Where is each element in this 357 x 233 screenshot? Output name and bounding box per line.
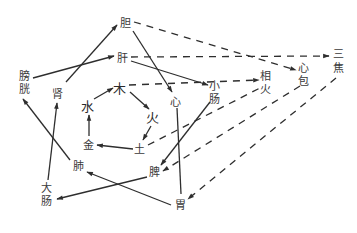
- node-huo: 火: [146, 110, 159, 125]
- edge-tu-to-jin: [97, 145, 133, 149]
- edge-gan-to-sanjiao: [131, 56, 329, 57]
- node-xinbao-2: 包: [298, 75, 309, 88]
- edge-dan-to-xin: [133, 31, 172, 92]
- node-gan: 肝: [117, 52, 128, 65]
- edge-gan-to-xiaochang: [131, 61, 208, 85]
- node-shen: 肾: [52, 88, 63, 101]
- node-wei: 胃: [175, 199, 186, 212]
- node-dan: 胆: [120, 17, 131, 30]
- edge-huo-to-tu: [143, 126, 151, 140]
- node-xiaochang-1: 小: [209, 80, 220, 93]
- node-sanjiao-1: 三: [333, 48, 344, 61]
- node-pangguang-1: 膀: [19, 69, 30, 83]
- edge-shen-to-dan: [66, 25, 117, 82]
- node-tu: 土: [134, 143, 145, 156]
- node-dachang-1: 大: [41, 181, 52, 195]
- edge-dan-to-xinbao: [134, 22, 296, 70]
- node-xianghuo-1: 相: [260, 70, 271, 83]
- node-xin: 心: [170, 96, 181, 109]
- node-sanjiao-2: 焦: [333, 62, 344, 75]
- node-fei: 肺: [73, 160, 84, 173]
- edge-shui-to-mu: [94, 88, 113, 99]
- element-cycle-edges: [89, 88, 151, 149]
- edge-tu-to-xianghuo: [148, 88, 260, 145]
- edge-fei-to-pangguang: [23, 99, 70, 160]
- edge-xin-to-wei: [177, 108, 181, 194]
- node-shui: 水: [81, 99, 94, 114]
- five-elements-diagram: 胆 肝 膀 胱 肾 木 水 火 金 土 心 小 肠 相 火 心 包 三 焦 肺 …: [0, 0, 357, 233]
- node-mu: 木: [113, 81, 126, 96]
- edge-pangguang-to-gan: [33, 56, 114, 78]
- edge-xinbao-to-pi: [163, 86, 300, 171]
- edge-mu-to-huo: [130, 92, 149, 109]
- node-pangguang-2: 胱: [19, 82, 30, 96]
- dashed-edges: [129, 22, 336, 199]
- node-pi: 脾: [149, 165, 160, 179]
- node-dachang-2: 肠: [41, 195, 52, 208]
- node-xinbao-1: 心: [298, 62, 309, 75]
- node-xianghuo-2: 火: [260, 83, 271, 96]
- node-labels: 胆 肝 膀 胱 肾 木 水 火 金 土 心 小 肠 相 火 心 包 三 焦 肺 …: [19, 17, 344, 212]
- node-jin: 金: [83, 138, 94, 152]
- node-xiaochang-2: 肠: [209, 93, 220, 106]
- edge-pi-to-dachang: [57, 177, 147, 199]
- edge-xiaochang-to-pi: [161, 102, 210, 165]
